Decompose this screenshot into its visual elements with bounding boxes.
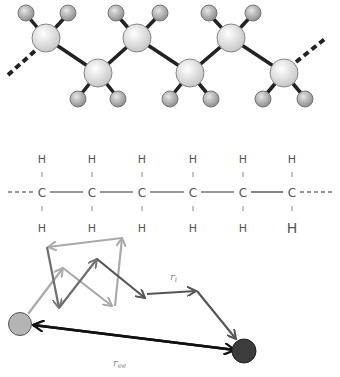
chain-start-node [9,313,32,336]
structural-formula: H H H H H H C C C C C C H H H H H H [8,153,332,236]
hydrogen-label: H [38,222,46,235]
segment-vector-label: ri [170,271,177,284]
hydrogen-label: H [288,153,296,166]
walk-segments-light [28,238,122,314]
polymer-diagram: H H H H H H C C C C C C H H H H H H [0,0,340,377]
hydrogen-label: H [239,153,247,166]
hydrogen-label: H [189,153,197,166]
hydrogen-label: H [189,222,197,235]
hydrogen-label: H [88,153,96,166]
carbon-label: C [288,186,296,200]
hydrogen-label: H [287,220,298,236]
hydrogen-label: H [239,222,247,235]
hydrogen-label: H [88,222,96,235]
end-to-end-arrow [33,325,235,350]
carbon-backbone [46,38,284,73]
carbon-label: C [38,186,46,200]
chain-continuation-left [8,50,36,75]
carbon-label: C [239,186,247,200]
carbon-label: C [189,186,197,200]
end-to-end-label: ree [113,357,126,370]
hydrogen-label: H [138,153,146,166]
hydrogen-label: H [138,222,146,235]
hydrogen-label: H [38,153,46,166]
random-walk: ri ree [9,238,257,370]
ball-stick-model [8,5,326,107]
chain-end-node [232,339,256,363]
carbon-label: C [138,186,146,200]
carbon-label: C [88,186,96,200]
chain-continuation-right [296,38,326,62]
